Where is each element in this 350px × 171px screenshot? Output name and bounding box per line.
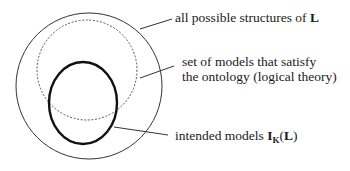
language-symbol: L xyxy=(310,10,319,25)
label-all-structures: all possible structures of L xyxy=(175,10,319,25)
ontology-models-dashed-circle xyxy=(37,20,137,120)
label-line-1: set of models that satisfy xyxy=(182,54,337,69)
leader-line-all-structures xyxy=(140,19,172,29)
leader-line-ontology-models xyxy=(140,66,174,78)
label-line-2: the ontology (logical theory) xyxy=(182,69,337,84)
leader-line-intended-models xyxy=(114,127,168,135)
intended-subscript: K xyxy=(273,135,280,145)
set-diagram xyxy=(0,0,350,171)
language-symbol: L xyxy=(284,128,293,143)
label-intended-models: intended models IK(L) xyxy=(175,128,298,143)
all-structures-circle xyxy=(16,13,162,159)
label-text: all possible structures of xyxy=(175,10,310,25)
label-text: intended models xyxy=(175,128,267,143)
intended-models-ellipse xyxy=(49,62,117,144)
paren-close: ) xyxy=(293,128,298,143)
label-ontology-models: set of models that satisfy the ontology … xyxy=(182,54,337,84)
